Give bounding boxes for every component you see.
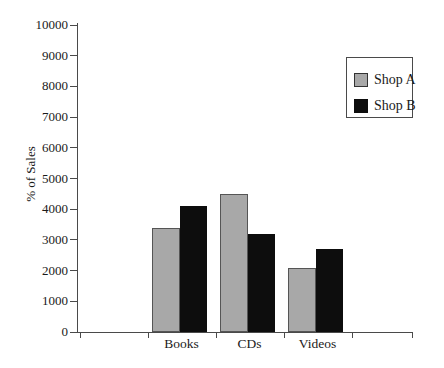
bar-shop-b-books: [180, 206, 208, 332]
y-tick-label: 2000: [8, 264, 68, 278]
y-tick: [70, 147, 78, 148]
y-tick: [70, 270, 78, 271]
y-tick: [70, 332, 78, 333]
y-tick: [70, 117, 78, 118]
y-tick-label: 5000: [8, 172, 68, 186]
bar-shop-b-cds: [248, 234, 276, 332]
y-tick: [70, 55, 78, 56]
y-tick-label: 4000: [8, 202, 68, 216]
y-tick-label: 6000: [8, 141, 68, 155]
y-tick: [70, 209, 78, 210]
y-tick-label: 10000: [8, 18, 68, 32]
y-tick-label: 7000: [8, 110, 68, 124]
bar-shop-a-cds: [220, 194, 248, 332]
category-label-videos: Videos: [278, 336, 358, 351]
y-tick: [70, 178, 78, 179]
legend-swatch-shop-a: [354, 73, 368, 87]
y-tick-label: 8000: [8, 79, 68, 93]
legend-label-shop-b: Shop B: [374, 99, 416, 113]
bar-shop-a-books: [152, 228, 180, 332]
y-tick-label: 3000: [8, 233, 68, 247]
legend: Shop A Shop B: [346, 57, 413, 118]
bar-shop-a-videos: [288, 268, 316, 332]
bar-shop-b-videos: [316, 249, 344, 332]
legend-item-shop-b: Shop B: [354, 93, 412, 119]
x-tick: [80, 332, 81, 338]
legend-item-shop-a: Shop A: [354, 67, 412, 93]
y-tick: [70, 86, 78, 87]
legend-label-shop-a: Shop A: [374, 73, 416, 87]
y-tick: [70, 301, 78, 302]
legend-swatch-shop-b: [354, 99, 368, 113]
y-tick-label: 0: [8, 325, 68, 339]
y-tick-label: 9000: [8, 49, 68, 63]
x-axis-line: [77, 332, 413, 333]
x-tick: [412, 332, 413, 338]
y-tick-label: 1000: [8, 294, 68, 308]
bar-chart-figure: % of Sales 01000200030004000500060007000…: [0, 0, 444, 368]
y-tick: [70, 239, 78, 240]
y-tick: [70, 25, 78, 26]
